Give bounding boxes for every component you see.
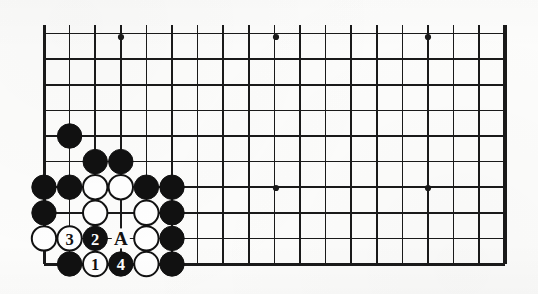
move-number-label: 4 [117, 255, 125, 274]
stone-disc-black [32, 175, 56, 199]
stone-disc-black [160, 252, 184, 276]
black-stone [160, 175, 184, 199]
stone-disc-black [160, 226, 184, 250]
go-board-diagram: 3214 A [0, 0, 538, 294]
black-stone [160, 201, 184, 225]
point-markers-group: A [112, 228, 130, 249]
white-stone-move-1: 1 [83, 252, 107, 276]
stone-disc-white [134, 226, 158, 250]
white-stone-move-3: 3 [57, 226, 81, 250]
stone-disc-white [134, 252, 158, 276]
stone-disc-black [83, 149, 107, 173]
black-stone [160, 226, 184, 250]
move-number-label: 1 [91, 255, 99, 274]
move-number-label: 3 [65, 230, 73, 249]
stone-disc-black [160, 175, 184, 199]
white-stone [109, 175, 133, 199]
hoshi-top-left [118, 34, 124, 40]
board-background [0, 0, 538, 294]
black-stone-move-4: 4 [109, 252, 133, 276]
black-stone [83, 149, 107, 173]
black-stone [160, 252, 184, 276]
black-stone [109, 149, 133, 173]
black-stone [32, 201, 56, 225]
move-number-label: 2 [91, 230, 99, 249]
stone-disc-black [134, 175, 158, 199]
stone-disc-black [109, 149, 133, 173]
hoshi-bottom-right [425, 185, 431, 191]
stone-disc-black [32, 201, 56, 225]
black-stone [57, 252, 81, 276]
stone-disc-white [134, 201, 158, 225]
stone-disc-black [57, 252, 81, 276]
white-stone [83, 201, 107, 225]
goban-canvas: 3214 A [0, 0, 538, 294]
white-stone [134, 226, 158, 250]
hoshi-bottom-center [273, 185, 279, 191]
stone-disc-black [57, 175, 81, 199]
hoshi-top-right [425, 34, 431, 40]
stone-disc-black [160, 201, 184, 225]
black-stone [134, 175, 158, 199]
black-stone [57, 124, 81, 148]
white-stone [134, 252, 158, 276]
marker-a-label: A [114, 228, 128, 249]
stone-disc-white [109, 175, 133, 199]
stone-disc-white [83, 175, 107, 199]
white-stone [83, 175, 107, 199]
hoshi-top-center [273, 34, 279, 40]
black-stone [32, 175, 56, 199]
stone-disc-black [57, 124, 81, 148]
white-stone [32, 226, 56, 250]
white-stone [134, 201, 158, 225]
black-stone [57, 175, 81, 199]
stone-disc-white [32, 226, 56, 250]
stone-disc-white [83, 201, 107, 225]
black-stone-move-2: 2 [83, 226, 107, 250]
